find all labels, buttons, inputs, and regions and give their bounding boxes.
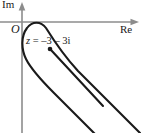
point-value-annotation: z = –3 – 3i: [26, 36, 70, 47]
point-marker-dot: [48, 47, 53, 52]
real-axis-label: Re: [120, 24, 132, 35]
axes-group: [0, 2, 139, 133]
origin-label: O: [11, 23, 20, 35]
point-equals-sign: =: [30, 35, 41, 46]
figure-canvas: [0, 0, 141, 133]
point-ray-group: [48, 47, 103, 106]
point-complex-value: –3 – 3i: [41, 35, 70, 46]
imaginary-axis-arrowhead: [19, 2, 26, 11]
imaginary-axis-label: Im: [2, 0, 14, 10]
complex-plane-figure: Im Re O z = –3 – 3i: [0, 0, 141, 133]
